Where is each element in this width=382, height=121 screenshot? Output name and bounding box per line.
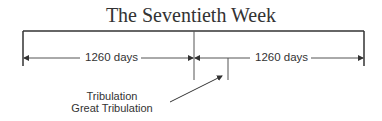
period-1-label: 1260 days — [82, 51, 141, 64]
annotation-text: Tribulation Great Tribulation — [70, 90, 154, 114]
annotation-line-tribulation: Tribulation — [70, 90, 154, 102]
annotation-pointer-arrow — [170, 76, 222, 102]
timeline-graphic — [0, 0, 382, 121]
annotation-line-great-tribulation: Great Tribulation — [70, 102, 154, 114]
period-2-label: 1260 days — [252, 51, 311, 64]
